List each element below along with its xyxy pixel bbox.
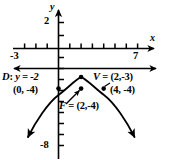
point-left <box>56 86 61 91</box>
y-axis <box>59 10 65 159</box>
vertex-name: V <box>93 71 100 82</box>
focus-point <box>79 86 84 91</box>
y-tick-label-2: 2 <box>44 16 49 27</box>
x-axis <box>13 44 154 49</box>
x-tick-label-minus3: -3 <box>10 51 19 62</box>
vertex-eq: = <box>100 71 111 82</box>
directrix-equation: y = -2 <box>15 71 38 82</box>
y-axis-ticks <box>59 23 65 146</box>
focus-name: F <box>59 100 66 111</box>
x-axis-label: x <box>150 33 155 43</box>
vertex-label: V = (2,-3) <box>93 72 133 83</box>
parabola-figure: y x 2 -8 -3 7 D: y = -2 (0, -4) V = (2,-… <box>0 0 169 160</box>
focus-point-text: (2,-4) <box>76 100 98 111</box>
vertex-point <box>79 75 84 80</box>
point-right-label: (4, -4) <box>110 85 135 96</box>
y-tick-label-minus8: -8 <box>40 140 49 151</box>
y-axis-label: y <box>50 2 54 12</box>
directrix-label: D: y = -2 <box>2 72 39 83</box>
point-right <box>101 86 106 91</box>
x-tick-label-7: 7 <box>133 51 138 62</box>
vertex-point-text: (2,-3) <box>110 71 132 82</box>
focus-label: F = (2,-4) <box>59 101 99 112</box>
focus-eq: = <box>66 100 77 111</box>
point-left-label: (0, -4) <box>13 85 38 96</box>
